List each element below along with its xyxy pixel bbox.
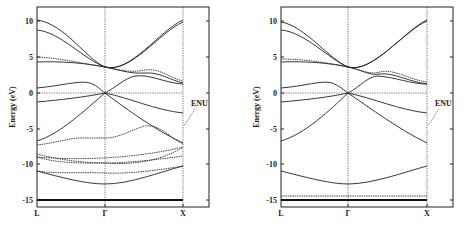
right-ytick-m10: -10 [266,160,277,169]
right-ytick-5: 5 [273,53,277,62]
left-plot: 10 5 0 -5 -10 -15 Energy (eV) L Γ X [8,7,209,218]
left-ytick-m5: -5 [26,125,33,134]
right-plot: 10 5 0 -5 -10 -15 Energy (eV) L Γ X ENU [252,7,453,218]
right-ytick-m15: -15 [266,196,277,205]
left-xtick-L: L [34,209,39,218]
left-ytick-m15: -15 [22,196,33,205]
right-ytick-0: 0 [273,89,277,98]
left-ytick-0: 0 [29,89,33,98]
right-y-axis-label: Energy (eV) [252,86,261,128]
left-xtick-gamma: Γ [102,209,107,218]
left-ytick-m10: -10 [22,160,33,169]
right-xtick-L: L [278,209,283,218]
right-ytick-m5: -5 [270,125,277,134]
right-xtick-gamma: Γ [345,209,350,218]
right-ytick-10: 10 [269,17,277,26]
right-enu-pointer [428,109,439,126]
left-ytick-5: 5 [29,53,33,62]
left-enu-pointer [184,109,195,126]
left-enu-label: ENU [191,99,208,108]
left-bands [37,20,183,200]
right-bands [281,20,427,200]
left-xtick-X: X [180,209,186,218]
left-y-axis-label: Energy (eV) [8,86,17,128]
band-structure-figure: 10 5 0 -5 -10 -15 Energy (eV) L Γ X [0,0,466,227]
left-ytick-10: 10 [25,17,33,26]
right-enu-label: ENU [435,99,452,108]
right-xtick-X: X [424,209,430,218]
